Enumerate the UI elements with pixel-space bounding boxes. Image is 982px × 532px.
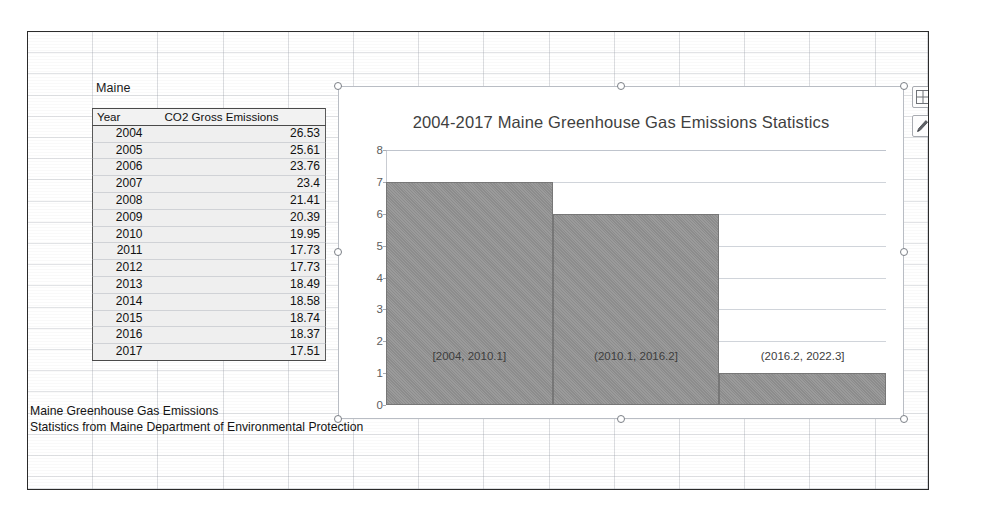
- table-row[interactable]: 200821.41: [93, 192, 326, 209]
- resize-handle-top-right[interactable]: [900, 82, 908, 90]
- chart-styles-button[interactable]: [912, 115, 929, 137]
- cell-co2-gross-emissions[interactable]: 26.53: [161, 125, 326, 142]
- histogram-bar[interactable]: [386, 182, 553, 405]
- cell-year[interactable]: 2004: [93, 125, 161, 142]
- resize-handle-bottom-right[interactable]: [900, 415, 908, 423]
- cell-year[interactable]: 2008: [93, 192, 161, 209]
- y-axis-tick-mark: [383, 405, 386, 406]
- table-head: Year CO2 Gross Emissions: [93, 109, 326, 126]
- cell-co2-gross-emissions[interactable]: 25.61: [161, 142, 326, 159]
- y-axis-tick-label: 2: [343, 335, 383, 347]
- resize-handle-top-center[interactable]: [617, 82, 625, 90]
- chart-side-buttons[interactable]: [912, 86, 929, 144]
- source-caption: Maine Greenhouse Gas Emissions Statistic…: [30, 404, 363, 435]
- table-header-row: Year CO2 Gross Emissions: [93, 109, 326, 126]
- cell-year[interactable]: 2005: [93, 142, 161, 159]
- table-row[interactable]: 201019.95: [93, 226, 326, 243]
- cell-co2-gross-emissions[interactable]: 17.51: [161, 344, 326, 361]
- cell-co2-gross-emissions[interactable]: 23.4: [161, 176, 326, 193]
- cell-year[interactable]: 2014: [93, 293, 161, 310]
- table-row[interactable]: 200723.4: [93, 176, 326, 193]
- resize-handle-middle-right[interactable]: [900, 248, 908, 256]
- chart-elements-button[interactable]: [912, 86, 929, 108]
- cell-co2-gross-emissions[interactable]: 18.37: [161, 327, 326, 344]
- x-axis-tick-label: (2016.2, 2022.3]: [719, 350, 886, 362]
- table-row[interactable]: 200525.61: [93, 142, 326, 159]
- table-row[interactable]: 201418.58: [93, 293, 326, 310]
- table-row[interactable]: 201117.73: [93, 243, 326, 260]
- cell-co2-gross-emissions[interactable]: 17.73: [161, 260, 326, 277]
- plot-area[interactable]: 012345678: [386, 150, 886, 405]
- gridline: [386, 150, 886, 151]
- y-axis-tick-label: 0: [343, 399, 383, 411]
- table-body: 200426.53200525.61200623.76200723.420082…: [93, 125, 326, 360]
- y-axis-tick-mark: [383, 150, 386, 151]
- cell-co2-gross-emissions[interactable]: 18.74: [161, 310, 326, 327]
- cell-year[interactable]: 2017: [93, 344, 161, 361]
- y-axis-tick-label: 4: [343, 272, 383, 284]
- column-header-year: Year: [93, 109, 161, 126]
- chart-object[interactable]: 2004-2017 Maine Greenhouse Gas Emissions…: [338, 86, 904, 419]
- table-row[interactable]: 201518.74: [93, 310, 326, 327]
- cell-co2-gross-emissions[interactable]: 18.49: [161, 276, 326, 293]
- cell-co2-gross-emissions[interactable]: 19.95: [161, 226, 326, 243]
- y-axis-tick-label: 3: [343, 303, 383, 315]
- cell-year[interactable]: 2011: [93, 243, 161, 260]
- resize-handle-middle-left[interactable]: [334, 248, 342, 256]
- table-row[interactable]: 200623.76: [93, 159, 326, 176]
- cell-co2-gross-emissions[interactable]: 18.58: [161, 293, 326, 310]
- cell-year[interactable]: 2007: [93, 176, 161, 193]
- histogram-bar[interactable]: [553, 214, 720, 405]
- table-row[interactable]: 200920.39: [93, 209, 326, 226]
- cell-year[interactable]: 2009: [93, 209, 161, 226]
- cell-year[interactable]: 2015: [93, 310, 161, 327]
- table-row[interactable]: 201318.49: [93, 276, 326, 293]
- cell-co2-gross-emissions[interactable]: 23.76: [161, 159, 326, 176]
- resize-handle-top-left[interactable]: [334, 82, 342, 90]
- table-caption-maine: Maine: [96, 81, 131, 95]
- cell-year[interactable]: 2012: [93, 260, 161, 277]
- histogram-bar[interactable]: [719, 373, 886, 405]
- y-axis-tick-label: 7: [343, 176, 383, 188]
- cell-year[interactable]: 2006: [93, 159, 161, 176]
- y-axis-tick-label: 6: [343, 208, 383, 220]
- x-axis-tick-label: (2010.1, 2016.2]: [553, 350, 720, 362]
- maine-co2-table[interactable]: Year CO2 Gross Emissions 200426.53200525…: [92, 108, 326, 361]
- cell-year[interactable]: 2013: [93, 276, 161, 293]
- table-row[interactable]: 201618.37: [93, 327, 326, 344]
- worksheet-area[interactable]: Maine Year CO2 Gross Emissions 200426.53…: [27, 31, 929, 490]
- cell-co2-gross-emissions[interactable]: 21.41: [161, 192, 326, 209]
- y-axis-tick-label: 1: [343, 367, 383, 379]
- resize-handle-bottom-center[interactable]: [617, 415, 625, 423]
- chart-title: 2004-2017 Maine Greenhouse Gas Emissions…: [339, 113, 903, 132]
- table-row[interactable]: 201717.51: [93, 344, 326, 361]
- resize-handle-bottom-left[interactable]: [334, 415, 342, 423]
- table-row[interactable]: 200426.53: [93, 125, 326, 142]
- cell-co2-gross-emissions[interactable]: 17.73: [161, 243, 326, 260]
- cell-co2-gross-emissions[interactable]: 20.39: [161, 209, 326, 226]
- cell-year[interactable]: 2016: [93, 327, 161, 344]
- y-axis-tick-label: 8: [343, 144, 383, 156]
- table-row[interactable]: 201217.73: [93, 260, 326, 277]
- column-header-co2: CO2 Gross Emissions: [161, 109, 326, 126]
- cell-year[interactable]: 2010: [93, 226, 161, 243]
- y-axis-tick-label: 5: [343, 240, 383, 252]
- x-axis-tick-label: [2004, 2010.1]: [386, 350, 553, 362]
